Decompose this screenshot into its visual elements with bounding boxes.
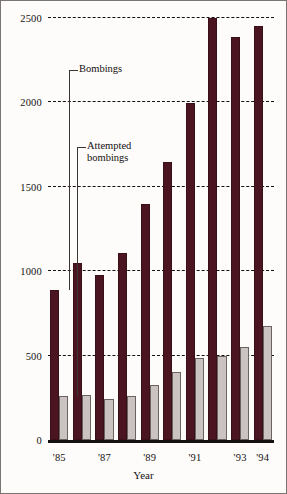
annotation-attempted-line1: Attempted (87, 140, 131, 151)
plot-area: 05001000150020002500 (48, 18, 274, 443)
x-axis-line (48, 440, 274, 443)
bar-group (254, 15, 272, 440)
bar-attempted-bombings (104, 399, 113, 440)
bar-attempted-bombings (263, 326, 272, 441)
bar-bombings (118, 253, 127, 441)
bar-attempted-bombings (195, 358, 204, 441)
y-tick-label: 1500 (20, 181, 42, 192)
bar-group (208, 15, 226, 440)
bar-attempted-bombings (150, 385, 159, 441)
x-tick-label: '94 (256, 452, 269, 463)
bar-attempted-bombings (217, 356, 226, 440)
bar-group (118, 15, 136, 440)
bar-bombings (254, 26, 263, 440)
annotation-attempted-bombings-label: Attempted bombings (87, 140, 131, 164)
x-tick-label: '89 (143, 452, 156, 463)
chart-figure: 05001000150020002500 '85'87'89'91'93'94 … (0, 0, 287, 494)
annotation-bombings-leader-hook (69, 70, 78, 71)
annotation-attempted-leader-line (77, 147, 78, 396)
bar-group (231, 15, 249, 440)
bar-group (95, 15, 113, 440)
x-tick-label: '87 (98, 452, 111, 463)
x-tick-label: '85 (53, 452, 66, 463)
bar-group (186, 15, 204, 440)
bar-group (141, 15, 159, 440)
y-tick-label: 0 (37, 435, 42, 446)
bar-bombings (141, 204, 150, 441)
bar-bombings (208, 18, 217, 440)
bar-attempted-bombings (240, 347, 249, 441)
bar-bombings (95, 275, 104, 441)
bar-series-container (48, 15, 274, 440)
annotation-attempted-leader-hook (77, 147, 86, 148)
x-tick-label: '93 (234, 452, 247, 463)
bar-bombings (231, 37, 240, 441)
y-tick-label: 2000 (20, 97, 42, 108)
annotation-attempted-line2: bombings (87, 152, 128, 163)
y-tick-label: 500 (26, 350, 42, 361)
bar-bombings (186, 103, 195, 441)
bar-attempted-bombings (82, 395, 91, 441)
y-tick-label: 1000 (20, 266, 42, 277)
bar-bombings (163, 162, 172, 441)
y-tick-label: 2500 (20, 13, 42, 24)
bar-group (50, 15, 68, 440)
bar-attempted-bombings (59, 396, 68, 441)
bar-bombings (50, 290, 59, 440)
bar-attempted-bombings (127, 396, 136, 441)
bar-group (73, 15, 91, 440)
annotation-bombings-leader-line (69, 70, 70, 290)
x-tick-label: '91 (188, 452, 201, 463)
annotation-bombings-label: Bombings (79, 63, 122, 75)
bar-group (163, 15, 181, 440)
bar-attempted-bombings (172, 372, 181, 440)
x-axis-title: Year (1, 469, 286, 481)
